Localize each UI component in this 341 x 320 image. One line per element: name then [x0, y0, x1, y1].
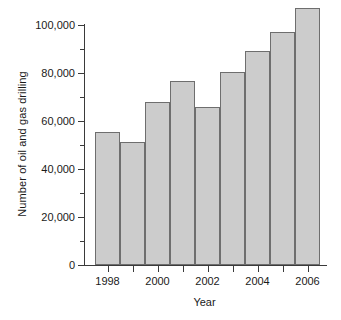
bar-1998: [95, 132, 120, 265]
x-tick: [258, 266, 259, 272]
x-tick-label: 1998: [95, 275, 119, 287]
bar-2004: [245, 51, 270, 265]
x-tick-label: 2006: [295, 275, 319, 287]
bar-2005: [270, 32, 295, 265]
bar-2006: [295, 8, 320, 265]
bar-chart: Number of oil and gas drilling 020,00040…: [0, 0, 341, 320]
x-tick: [283, 266, 284, 272]
x-tick-label: 2002: [195, 275, 219, 287]
x-tick-label: 2004: [245, 275, 269, 287]
bar-2001: [170, 81, 195, 265]
x-tick: [308, 266, 309, 272]
bar-2002: [195, 107, 220, 265]
x-tick-label: 2000: [145, 275, 169, 287]
x-tick: [108, 266, 109, 272]
bar-2000: [145, 102, 170, 265]
x-tick: [233, 266, 234, 272]
bar-2003: [220, 72, 245, 265]
bar-series: [0, 0, 341, 266]
bar-1999: [120, 142, 145, 265]
x-tick: [133, 266, 134, 272]
x-axis-title: Year: [0, 296, 341, 308]
x-tick: [158, 266, 159, 272]
x-tick: [183, 266, 184, 272]
x-tick: [208, 266, 209, 272]
